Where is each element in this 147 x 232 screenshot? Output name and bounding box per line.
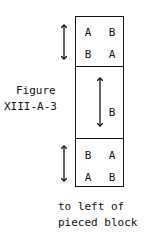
bottom-section-divider <box>76 138 123 139</box>
bottom-cell-r2c2: B <box>107 172 117 183</box>
bottom-cell-r2c1: A <box>83 172 93 183</box>
bottom-cell-r1c1: B <box>83 150 93 161</box>
diagram-canvas: A B B A B B A A B Figure XIII-A-3 to lef… <box>0 0 147 232</box>
top-section-divider <box>76 66 123 67</box>
arrows-layer <box>0 0 147 232</box>
top-cell-r1c2: B <box>107 27 117 38</box>
middle-cell-letter: B <box>107 107 117 118</box>
caption-line-1: to left of <box>58 200 124 213</box>
top-cell-r1c1: A <box>83 27 93 38</box>
figure-label: Figure <box>16 84 56 97</box>
caption-line-2: pieced block <box>58 216 137 229</box>
top-cell-r2c1: B <box>83 49 93 60</box>
figure-number: XIII-A-3 <box>4 100 57 113</box>
top-cell-r2c2: A <box>107 49 117 60</box>
pieced-block-strip: A B B A B B A A B <box>75 16 124 187</box>
bottom-cell-r1c2: A <box>107 150 117 161</box>
